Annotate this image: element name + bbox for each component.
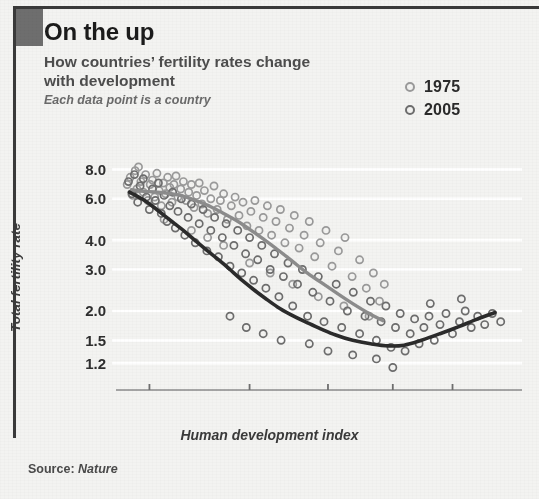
open-circle-icon: [405, 105, 415, 115]
legend-item-1975: 1975: [405, 78, 523, 96]
legend-item-2005: 2005: [405, 101, 523, 119]
x-tick-label: 0.90: [378, 396, 407, 398]
x-tick-label: 0.95: [438, 396, 467, 398]
y-tick-label: 2.0: [85, 302, 106, 319]
top-rule-divider: [13, 6, 539, 9]
scatter-plot: 8.06.04.03.02.01.51.2 0.300.600.800.900.…: [16, 140, 526, 398]
y-tick-label: 1.5: [85, 332, 106, 349]
plot-area: 8.06.04.03.02.01.51.2 0.300.600.800.900.…: [16, 140, 526, 398]
corner-block-decoration: [16, 9, 43, 46]
y-tick-label: 4.0: [85, 232, 106, 249]
page-title: On the up: [44, 18, 524, 46]
legend-label-2005: 2005: [424, 101, 460, 119]
y-axis-tick-labels: 8.06.04.03.02.01.51.2: [85, 161, 106, 372]
x-tick-label: 0.30: [135, 396, 164, 398]
legend: 1975 2005: [405, 78, 523, 119]
source-publication: Nature: [78, 462, 118, 476]
y-tick-label: 8.0: [85, 161, 106, 178]
y-tick-label: 6.0: [85, 190, 106, 207]
y-tick-label: 1.2: [85, 355, 106, 372]
y-axis-title: Total fertility rate: [8, 223, 23, 332]
source-note: Source: Nature: [28, 462, 118, 476]
open-circle-icon: [405, 82, 415, 92]
y-tick-label: 3.0: [85, 261, 106, 278]
subtitle: How countries’ fertility rates change wi…: [44, 52, 344, 90]
infographic-figure: On the up How countries’ fertility rates…: [0, 0, 539, 499]
x-tick-label: 0.80: [313, 396, 342, 398]
source-prefix: Source:: [28, 462, 75, 476]
x-tick-label: 0.60: [235, 396, 264, 398]
legend-label-1975: 1975: [424, 78, 460, 96]
x-axis-title: Human development index: [0, 427, 539, 443]
